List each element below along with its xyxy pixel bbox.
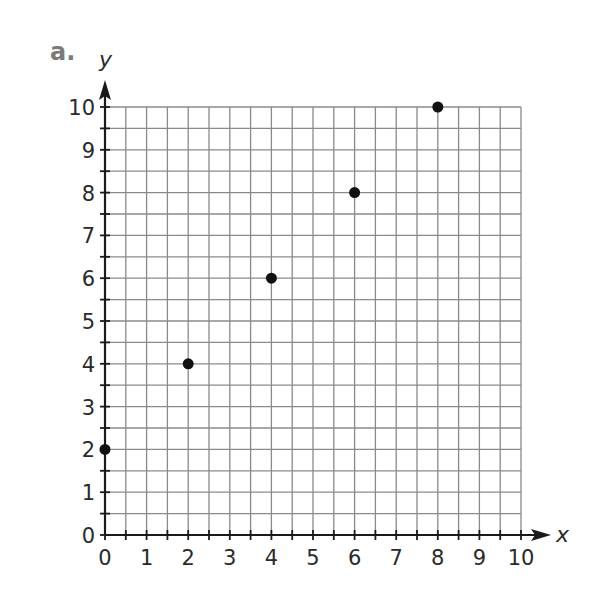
x-tick-label: 5 — [306, 546, 319, 570]
y-tick-label: 0 — [82, 524, 95, 548]
data-point — [183, 358, 194, 369]
y-tick-label: 4 — [82, 353, 95, 377]
x-tick-label: 9 — [473, 546, 486, 570]
data-point — [266, 273, 277, 284]
x-tick-label: 8 — [431, 546, 444, 570]
data-point — [100, 444, 111, 455]
x-tick-label: 10 — [508, 546, 535, 570]
x-tick-label: 2 — [182, 546, 195, 570]
y-axis-label: y — [98, 47, 113, 72]
x-axis-label: x — [555, 522, 570, 547]
x-tick-label: 6 — [348, 546, 361, 570]
tick-labels: 012345678910012345678910 — [68, 96, 534, 570]
y-tick-label: 8 — [82, 182, 95, 206]
x-tick-label: 0 — [98, 546, 111, 570]
y-tick-label: 1 — [82, 481, 95, 505]
grid-lines — [105, 107, 521, 535]
y-tick-label: 3 — [82, 396, 95, 420]
data-point — [349, 187, 360, 198]
y-tick-label: 7 — [82, 224, 95, 248]
x-tick-label: 3 — [223, 546, 236, 570]
y-tick-label: 9 — [82, 139, 95, 163]
y-tick-label: 2 — [82, 438, 95, 462]
x-tick-label: 7 — [390, 546, 403, 570]
x-tick-label: 1 — [140, 546, 153, 570]
coordinate-plane: a. 012345678910012345678910 x y — [0, 0, 594, 605]
data-point — [432, 102, 443, 113]
y-tick-label: 5 — [82, 310, 95, 334]
y-tick-label: 6 — [82, 267, 95, 291]
y-tick-label: 10 — [68, 96, 95, 120]
problem-label: a. — [50, 38, 75, 66]
x-tick-label: 4 — [265, 546, 278, 570]
